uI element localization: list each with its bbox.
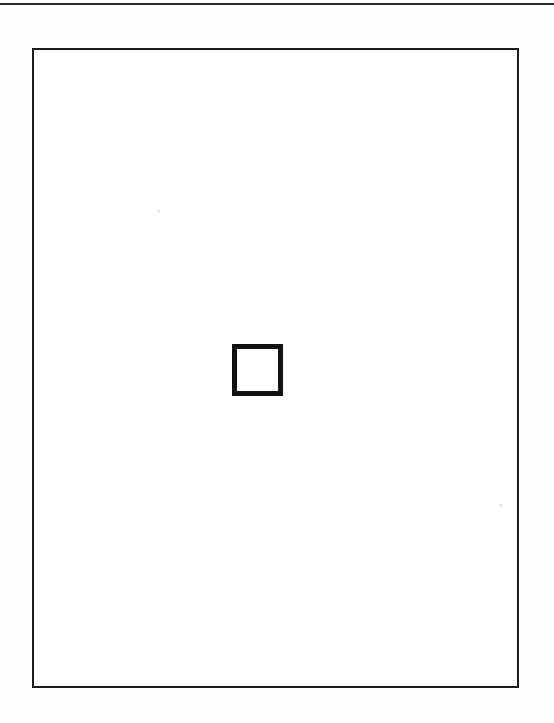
inner-square xyxy=(232,344,283,396)
scan-edge-rule xyxy=(0,3,554,5)
figure-frame xyxy=(32,48,519,688)
scan-speck-upper-left xyxy=(157,210,160,213)
scan-speck-lower-right xyxy=(499,504,502,507)
scanned-figure-page xyxy=(0,0,554,723)
